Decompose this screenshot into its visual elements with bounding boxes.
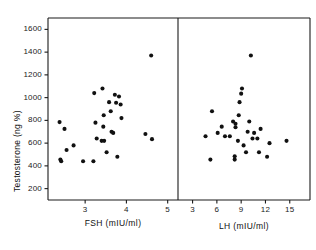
data-point [92,91,96,95]
data-point [267,141,271,145]
data-point [105,150,109,154]
y-tick-label: 800 [0,115,42,124]
y-tick-label: 1600 [0,24,42,33]
data-point [237,113,241,117]
data-point [72,143,76,147]
data-point [113,93,117,97]
data-point [102,113,106,117]
data-point [210,109,214,113]
data-point [114,101,118,105]
x-axis-label-fsh: FSH (mIU/ml) [75,218,151,228]
data-point [58,120,62,124]
data-point [95,137,99,141]
data-point [233,154,237,158]
data-point [111,131,115,135]
data-point [255,137,259,141]
x-tick-label: 6 [207,205,227,214]
data-point [257,150,261,154]
y-tick-label: 200 [0,184,42,193]
data-point [239,92,243,96]
data-point [233,125,237,129]
data-point [115,155,119,159]
data-point [220,125,224,129]
data-point [109,109,113,113]
data-point [240,86,244,90]
data-point [100,86,104,90]
y-tick-label: 400 [0,161,42,170]
data-point [249,53,253,57]
data-point [150,137,154,141]
x-tick-label: 5 [158,205,178,214]
data-point [247,119,251,123]
x-tick-label: 15 [280,205,300,214]
data-point [65,148,69,152]
x-tick-label: 12 [255,205,275,214]
data-point [143,132,147,136]
data-point [91,159,95,163]
data-point [208,158,212,162]
data-point [250,137,254,141]
data-point [259,127,263,131]
data-point [223,134,227,138]
data-point [216,131,220,135]
x-tick-label: 9 [231,205,251,214]
data-point [93,121,97,125]
data-point [203,134,207,138]
data-point [117,94,121,98]
y-tick-label: 1000 [0,93,42,102]
data-point [102,139,106,143]
data-point [107,100,111,104]
data-point [265,155,269,159]
y-tick-label: 600 [0,138,42,147]
x-axis-label-lh: LH (mIU/ml) [206,221,282,231]
data-point [119,102,123,106]
data-point [59,159,63,163]
data-point [242,143,246,147]
data-point [252,131,256,135]
figure: Testosterone (ng %) FSH (mIU/ml) LH (mIU… [0,0,316,250]
data-point [228,134,232,138]
data-point [62,127,66,131]
x-tick-label: 3 [183,205,203,214]
data-point [246,130,250,134]
data-point [236,139,240,143]
data-point [238,100,242,104]
data-point [119,116,123,120]
data-point [81,159,85,163]
y-tick-label: 1400 [0,47,42,56]
data-point [284,139,288,143]
data-point [244,150,248,154]
data-point [101,125,105,129]
x-tick-label: 4 [116,205,136,214]
data-point [149,53,153,57]
y-tick-label: 1200 [0,70,42,79]
x-tick-label: 3 [75,205,95,214]
